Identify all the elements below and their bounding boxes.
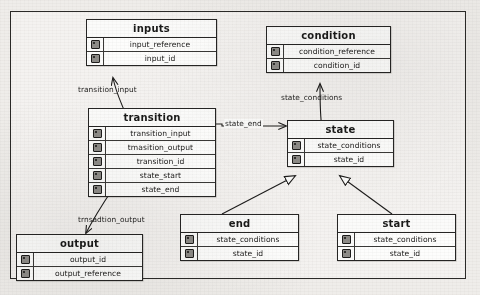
key-icon	[288, 153, 305, 166]
attribute-row[interactable]: condition_id	[267, 59, 390, 72]
edge-end-isa-state	[222, 176, 295, 214]
attribute-row[interactable]: output_reference	[17, 267, 142, 280]
attribute-name: tmasition_output	[106, 141, 215, 154]
edge-transition-input	[113, 78, 124, 110]
entity-title: state	[288, 121, 393, 139]
attribute-row[interactable]: transition_id	[89, 155, 215, 169]
attribute-row[interactable]: state_start	[89, 169, 215, 183]
attribute-name: state_id	[305, 153, 393, 166]
attribute-row[interactable]: output_id	[17, 253, 142, 267]
attribute-row[interactable]: tmasition_output	[89, 141, 215, 155]
key-icon	[181, 233, 198, 246]
key-icon	[89, 183, 106, 196]
key-icon	[181, 247, 198, 260]
attribute-name: transition_input	[106, 127, 215, 140]
entity-transition[interactable]: transition transition_input tmasition_ou…	[88, 108, 216, 197]
attribute-name: condition_id	[284, 59, 390, 72]
entity-end[interactable]: end state_conditions state_id	[180, 214, 299, 261]
attribute-row[interactable]: transition_input	[89, 127, 215, 141]
attribute-name: state_conditions	[355, 233, 455, 246]
key-icon	[17, 267, 34, 280]
attribute-name: state_conditions	[305, 139, 393, 152]
edge-start-isa-state	[340, 176, 392, 214]
key-icon	[89, 169, 106, 182]
attribute-name: state_conditions	[198, 233, 298, 246]
edge-label-transition-input: transition_input	[78, 85, 137, 94]
attribute-name: input_id	[104, 52, 216, 65]
attribute-name: state_id	[355, 247, 455, 260]
key-icon	[89, 155, 106, 168]
key-icon	[338, 247, 355, 260]
attribute-name: state_end	[106, 183, 215, 196]
attribute-row[interactable]: state_id	[288, 153, 393, 166]
key-icon	[267, 45, 284, 58]
diagram-canvas: inputs input_reference input_id conditio…	[0, 0, 480, 295]
entity-title: inputs	[87, 20, 216, 38]
attribute-row[interactable]: state_end	[89, 183, 215, 196]
attribute-name: transition_id	[106, 155, 215, 168]
attribute-name: input_reference	[104, 38, 216, 51]
entity-start[interactable]: start state_conditions state_id	[337, 214, 456, 261]
key-icon	[288, 139, 305, 152]
entity-title: condition	[267, 27, 390, 45]
attribute-row[interactable]: state_id	[338, 247, 455, 260]
attribute-row[interactable]: input_reference	[87, 38, 216, 52]
key-icon	[338, 233, 355, 246]
key-icon	[87, 52, 104, 65]
key-icon	[87, 38, 104, 51]
attribute-row[interactable]: input_id	[87, 52, 216, 65]
entity-inputs[interactable]: inputs input_reference input_id	[86, 19, 217, 66]
edge-label-state-end: state_end	[224, 119, 263, 128]
key-icon	[17, 253, 34, 266]
attribute-row[interactable]: state_conditions	[338, 233, 455, 247]
attribute-name: output_reference	[34, 267, 142, 280]
attribute-row[interactable]: state_id	[181, 247, 298, 260]
entity-title: transition	[89, 109, 215, 127]
entity-state[interactable]: state state_conditions state_id	[287, 120, 394, 167]
edge-label-state-conditions: state_conditions	[281, 93, 342, 102]
entity-condition[interactable]: condition condition_reference condition_…	[266, 26, 391, 73]
key-icon	[267, 59, 284, 72]
attribute-row[interactable]: state_conditions	[181, 233, 298, 247]
entity-title: output	[17, 235, 142, 253]
attribute-row[interactable]: condition_reference	[267, 45, 390, 59]
key-icon	[89, 127, 106, 140]
entity-title: start	[338, 215, 455, 233]
attribute-name: output_id	[34, 253, 142, 266]
attribute-row[interactable]: state_conditions	[288, 139, 393, 153]
attribute-name: state_id	[198, 247, 298, 260]
edge-label-transition-output: trnsadtion_output	[78, 215, 145, 224]
entity-output[interactable]: output output_id output_reference	[16, 234, 143, 281]
entity-title: end	[181, 215, 298, 233]
key-icon	[89, 141, 106, 154]
attribute-name: condition_reference	[284, 45, 390, 58]
attribute-name: state_start	[106, 169, 215, 182]
